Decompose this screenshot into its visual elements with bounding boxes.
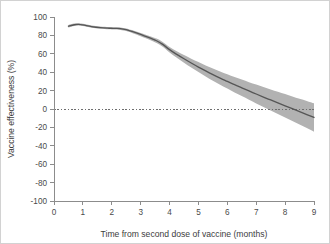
y-tick-label: -20 bbox=[35, 123, 47, 132]
y-tick-label: 60 bbox=[38, 50, 48, 59]
y-tick-label: 40 bbox=[38, 68, 48, 77]
y-tick-label: -60 bbox=[35, 160, 47, 169]
y-tick-label: 100 bbox=[33, 13, 47, 22]
x-tick-label: 0 bbox=[52, 208, 57, 217]
x-tick-label: 3 bbox=[138, 208, 143, 217]
y-tick-label: -40 bbox=[35, 142, 47, 151]
x-tick-label: 4 bbox=[167, 208, 172, 217]
y-tick-label: -80 bbox=[35, 179, 47, 188]
y-tick-label: -100 bbox=[31, 197, 48, 206]
y-axis-title: Vaccine effectiveness (%) bbox=[6, 60, 16, 158]
x-tick-label: 8 bbox=[283, 208, 288, 217]
x-tick-label: 5 bbox=[196, 208, 201, 217]
x-tick-label: 2 bbox=[109, 208, 114, 217]
x-axis-ticks: 0123456789 bbox=[52, 201, 317, 217]
x-tick-label: 1 bbox=[81, 208, 86, 217]
y-tick-label: 80 bbox=[38, 31, 48, 40]
x-axis-title: Time from second dose of vaccine (months… bbox=[101, 229, 268, 239]
y-tick-label: 0 bbox=[42, 105, 47, 114]
x-tick-label: 6 bbox=[225, 208, 230, 217]
y-tick-label: 20 bbox=[38, 87, 48, 96]
vaccine-effectiveness-chart: -100-80-60-40-20020406080100 0123456789 … bbox=[1, 1, 330, 244]
y-axis-ticks: -100-80-60-40-20020406080100 bbox=[31, 13, 54, 206]
x-tick-label: 7 bbox=[254, 208, 259, 217]
figure-container: -100-80-60-40-20020406080100 0123456789 … bbox=[0, 0, 330, 244]
x-tick-label: 9 bbox=[312, 208, 317, 217]
